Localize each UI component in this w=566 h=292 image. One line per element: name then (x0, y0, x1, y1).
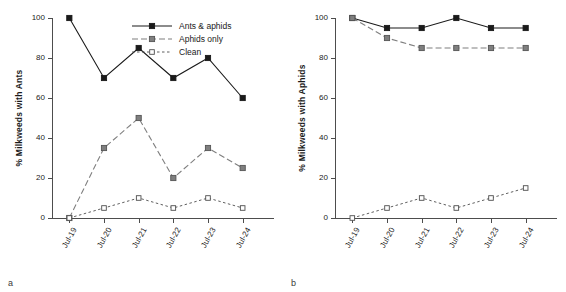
data-point-marker (488, 45, 493, 50)
data-point-marker (205, 145, 210, 150)
panel-letter-a: a (8, 278, 13, 288)
chart-panel-b: % Milkweeds with Aphids 020406080100Jul-… (283, 0, 566, 292)
data-series (67, 115, 246, 220)
data-point-marker (454, 15, 459, 20)
data-point-marker (101, 145, 106, 150)
data-point-marker (419, 196, 424, 201)
data-point-marker (488, 25, 493, 30)
data-point-marker (454, 45, 459, 50)
legend-item-label: Clean (179, 47, 201, 57)
data-series (350, 15, 529, 30)
figure-container: % Milkweeds with Ants 020406080100Jul-19… (0, 0, 566, 292)
data-point-marker (171, 206, 176, 211)
data-point-marker (136, 196, 141, 201)
series-line (352, 18, 525, 28)
data-point-marker (350, 216, 355, 221)
data-point-marker (419, 25, 424, 30)
data-point-marker (384, 35, 389, 40)
panel-letter-b: b (291, 278, 296, 288)
data-point-marker (385, 206, 390, 211)
data-point-marker (101, 75, 106, 80)
legend-marker-icon (130, 20, 174, 32)
data-point-marker (240, 95, 245, 100)
data-point-marker (350, 15, 355, 20)
data-point-marker (523, 25, 528, 30)
series-line (69, 198, 242, 218)
data-point-marker (136, 115, 141, 120)
data-point-marker (205, 55, 210, 60)
data-point-marker (240, 165, 245, 170)
data-point-marker (102, 206, 107, 211)
legend-item-label: Aphids only (179, 34, 223, 44)
series-line (352, 188, 525, 218)
data-point-marker (489, 196, 494, 201)
data-point-marker (454, 206, 459, 211)
legend-item-label: Ants & aphids (179, 21, 231, 31)
series-layer (283, 0, 566, 292)
data-point-marker (206, 196, 211, 201)
data-point-marker (67, 216, 72, 221)
legend-marker-icon (130, 46, 174, 58)
data-point-marker (240, 206, 245, 211)
data-point-marker (384, 25, 389, 30)
chart-panel-a: % Milkweeds with Ants 020406080100Jul-19… (0, 0, 283, 292)
data-series (350, 186, 528, 221)
data-point-marker (523, 186, 528, 191)
data-point-marker (67, 15, 72, 20)
data-point-marker (171, 175, 176, 180)
legend-marker-icon (130, 33, 174, 45)
data-point-marker (419, 45, 424, 50)
data-point-marker (523, 45, 528, 50)
data-series (350, 15, 529, 50)
data-point-marker (171, 75, 176, 80)
data-series (67, 196, 245, 221)
